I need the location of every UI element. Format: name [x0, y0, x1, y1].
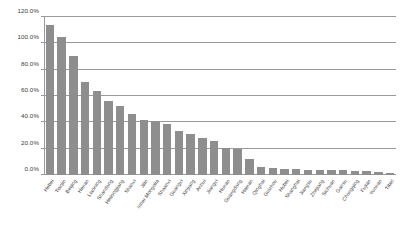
bar-slot	[232, 17, 244, 175]
bar-slot	[150, 17, 162, 175]
bars-group	[44, 17, 396, 175]
y-axis-tick-label: 20.0%	[21, 138, 39, 145]
bar-slot	[44, 17, 56, 175]
bar-slot	[243, 17, 255, 175]
bar-slot	[103, 17, 115, 175]
bar	[57, 37, 65, 175]
bar	[269, 168, 277, 175]
bar-slot	[208, 17, 220, 175]
bar-slot	[290, 17, 302, 175]
bar	[81, 82, 89, 175]
x-axis-labels-group: HebeiTianjinBeijingHenanLiaoningShandong…	[44, 177, 396, 241]
bar	[104, 101, 112, 175]
bar	[222, 148, 230, 175]
bar-slot	[373, 17, 385, 175]
bar-slot	[91, 17, 103, 175]
bar	[116, 106, 124, 175]
bar	[339, 170, 347, 175]
bar	[245, 159, 253, 175]
bar	[69, 56, 77, 175]
bar-slot	[384, 17, 396, 175]
bar-slot	[337, 17, 349, 175]
bar-slot	[279, 17, 291, 175]
bar	[128, 114, 136, 175]
bar-slot	[197, 17, 209, 175]
bar-slot	[220, 17, 232, 175]
bar-slot	[314, 17, 326, 175]
bar-slot	[302, 17, 314, 175]
bar	[186, 134, 194, 175]
bar-slot	[161, 17, 173, 175]
bar-slot	[255, 17, 267, 175]
bar-slot	[361, 17, 373, 175]
y-axis-tick-label: 80.0%	[21, 59, 39, 66]
bar-slot	[56, 17, 68, 175]
bar-slot	[349, 17, 361, 175]
bar	[198, 138, 206, 175]
bar	[386, 173, 394, 175]
plot-area: 120.0%100.0%80.0%60.0%40.0%20.0%0.0%	[44, 17, 396, 175]
bar	[316, 170, 324, 175]
bar	[46, 25, 54, 175]
bar-chart: 120.0%100.0%80.0%60.0%40.0%20.0%0.0% Heb…	[0, 0, 406, 242]
bar	[140, 120, 148, 175]
bar-slot	[326, 17, 338, 175]
bar	[280, 169, 288, 175]
bar-slot	[114, 17, 126, 175]
bar-slot	[67, 17, 79, 175]
bar	[351, 171, 359, 175]
bar	[163, 124, 171, 175]
bar-slot	[185, 17, 197, 175]
bar-slot	[267, 17, 279, 175]
bar	[175, 131, 183, 175]
bar-slot	[126, 17, 138, 175]
bar-slot	[79, 17, 91, 175]
bar	[374, 172, 382, 175]
x-axis-tick-label: Tibet	[384, 178, 395, 191]
bar	[304, 170, 312, 175]
bar-slot	[138, 17, 150, 175]
bar	[257, 167, 265, 175]
y-axis-tick-label: 40.0%	[21, 112, 39, 119]
y-axis-tick-label: 120.0%	[17, 7, 39, 14]
bar	[93, 91, 101, 175]
bar-slot	[173, 17, 185, 175]
y-axis-tick-label: 100.0%	[17, 33, 39, 40]
y-axis-tick-label: 60.0%	[21, 86, 39, 93]
bar	[362, 171, 370, 175]
y-axis-tick-label: 0.0%	[24, 165, 39, 172]
bar	[327, 170, 335, 175]
bar	[210, 141, 218, 175]
bar	[151, 121, 159, 175]
bar	[292, 169, 300, 175]
bar	[233, 149, 241, 175]
